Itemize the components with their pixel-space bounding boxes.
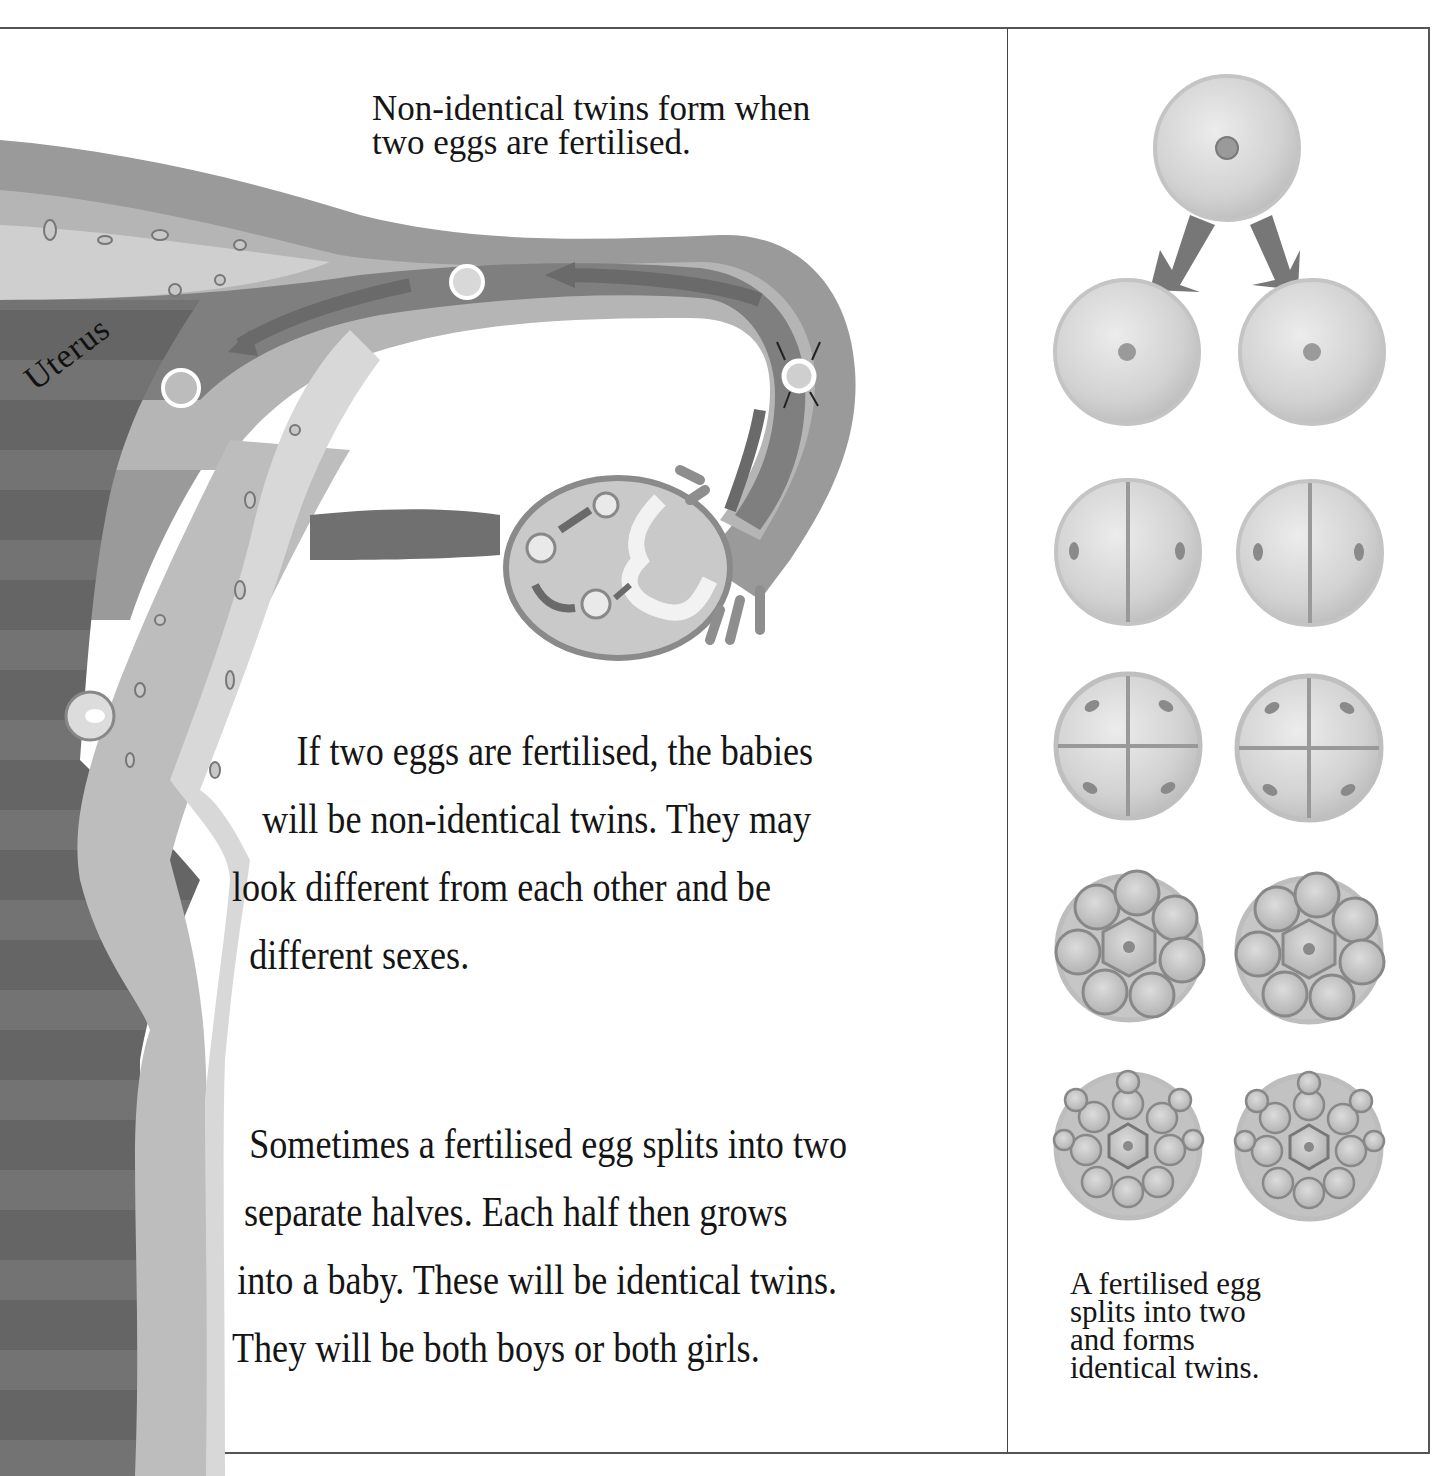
top-caption: Non-identical twins form when two eggs a…	[372, 92, 810, 160]
paragraph-line: look different from each other and be	[232, 861, 813, 929]
top-caption-line: Non-identical twins form when	[372, 92, 810, 126]
split-into-two	[1055, 280, 1384, 424]
single-fertilised-egg	[1155, 76, 1299, 220]
fertilised-egg-icon	[451, 266, 483, 298]
paragraph-line: If two eggs are fertilised, the babies	[232, 725, 813, 793]
egg-splitting-sequence-panel	[1008, 29, 1428, 1452]
four-cell-stage	[1056, 674, 1381, 820]
two-cell-stage	[1056, 480, 1382, 625]
paragraph-line: into a baby. These will be identical twi…	[232, 1254, 847, 1322]
follicle-icon	[594, 493, 618, 517]
side-panel-caption: A fertilised egg splits into two and for…	[1070, 1270, 1261, 1382]
egg-with-sperm-icon	[784, 361, 814, 391]
split-arrows-icon	[1150, 215, 1300, 292]
eight-cell-stage	[1056, 871, 1384, 1022]
top-caption-line: two eggs are fertilised.	[372, 126, 810, 160]
paragraph-non-identical-twins: If two eggs are fertilised, the babies w…	[232, 725, 813, 997]
follicle-icon	[582, 590, 610, 618]
paragraph-line: different sexes.	[232, 929, 813, 997]
follicle-icon	[527, 534, 555, 562]
paragraph-line: Sometimes a fertilised egg splits into t…	[232, 1118, 847, 1186]
paragraph-line: separate halves. Each half then grows	[232, 1186, 847, 1254]
paragraph-line: will be non-identical twins. They may	[232, 793, 813, 861]
dividing-egg-icon	[163, 370, 199, 406]
morula-stage	[1054, 1071, 1384, 1219]
page-frame-right	[1428, 27, 1430, 1454]
paragraph-line: They will be both boys or both girls.	[232, 1322, 847, 1390]
side-caption-line: identical twins.	[1070, 1354, 1261, 1382]
paragraph-identical-twins: Sometimes a fertilised egg splits into t…	[232, 1118, 847, 1390]
